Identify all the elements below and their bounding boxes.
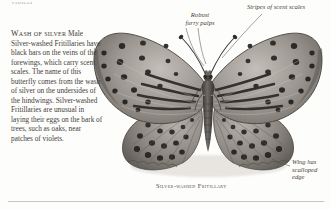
cutoff-top-text: violets	[11, 0, 32, 6]
annotation-robust-furry-palps: Robust furry palps	[178, 11, 222, 26]
body-text-column: Wash of silver Male Silver-washed Fritil…	[11, 29, 103, 144]
body-text-heading: Wash of silver	[11, 29, 66, 38]
annotation-stripes-of-scent-scales: Stripes of scent scales	[228, 3, 324, 11]
specimen-caption: Silver-washed Fritillary	[156, 182, 227, 189]
book-page: violets	[0, 0, 331, 210]
left-forewing	[94, 33, 204, 123]
body-text-paragraph: Male Silver-washed Fritillaries have bla…	[11, 29, 102, 143]
right-forewing	[212, 33, 322, 123]
footer-rule	[8, 201, 324, 202]
annotation-wing-has-scalloped-edge: Wing has scalloped edge	[292, 158, 330, 181]
